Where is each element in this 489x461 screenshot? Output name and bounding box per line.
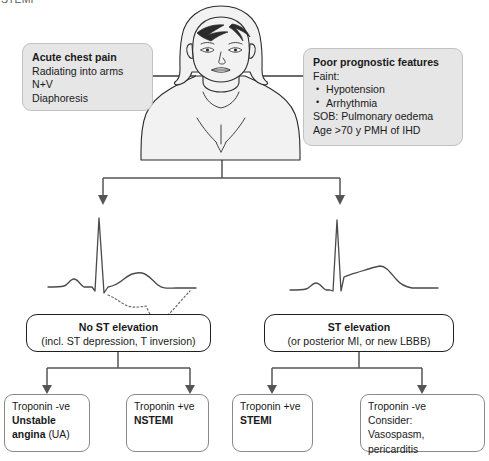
- outcome-unstable-angina: Troponin -ve Unstable angina (UA): [4, 394, 90, 452]
- ecg-right-solid-trace: [290, 220, 438, 291]
- other-consider-list: Vasospasm, pericarditis: [368, 428, 477, 456]
- stemi-troponin-status: Troponin +ve: [240, 400, 305, 414]
- outcome-nstemi: Troponin +ve NSTEMI: [126, 394, 209, 452]
- st-elevation-heading: ST elevation: [265, 320, 453, 334]
- clipped-page-title: STEMI: [1, 0, 34, 5]
- prognosis-age-line: Age >70 y PMH of IHD: [313, 124, 453, 138]
- symptom-line-1: Radiating into arms: [32, 65, 143, 79]
- acute-chest-pain-box: Acute chest pain Radiating into arms N+V…: [22, 43, 153, 111]
- ua-diagnosis-line2-bold: angina: [12, 429, 46, 440]
- acute-chest-pain-heading: Acute chest pain: [32, 51, 143, 65]
- ua-diagnosis-line2-rest: (UA): [46, 429, 70, 440]
- ua-diagnosis-line2: angina (UA): [12, 428, 82, 442]
- outcome-stemi: Troponin +ve STEMI: [232, 394, 313, 452]
- decision-st-elevation: ST elevation (or posterior MI, or new LB…: [264, 314, 454, 352]
- stemi-diagnosis: STEMI: [240, 414, 305, 428]
- other-consider-label: Consider:: [368, 414, 477, 428]
- st-elevation-subtext: (or posterior MI, or new LBBB): [265, 334, 453, 348]
- ecg-left-solid-trace: [48, 218, 196, 293]
- ecg-no-st-elevation: [48, 218, 196, 320]
- prognosis-bullet-hypotension: Hypotension: [313, 83, 453, 97]
- other-troponin-status: Troponin -ve: [368, 400, 477, 414]
- no-st-elevation-subtext: (incl. ST depression, T inversion): [27, 334, 210, 348]
- poor-prognostic-heading: Poor prognostic features: [313, 56, 453, 70]
- symptom-line-2: N+V: [32, 78, 143, 92]
- symptom-line-3: Diaphoresis: [32, 92, 143, 106]
- no-st-elevation-heading: No ST elevation: [27, 320, 210, 334]
- prognosis-bullet-arrhythmia: Arrhythmia: [313, 97, 453, 111]
- outcome-vasospasm-pericarditis: Troponin -ve Consider: Vasospasm, perica…: [360, 394, 485, 452]
- prognosis-sob-line: SOB: Pulmonary oedema: [313, 110, 453, 124]
- poor-prognostic-features-box: Poor prognostic features Faint: Hypotens…: [303, 48, 463, 146]
- nstemi-troponin-status: Troponin +ve: [134, 400, 201, 414]
- nstemi-diagnosis: NSTEMI: [134, 414, 201, 428]
- decision-no-st-elevation: No ST elevation (incl. ST depression, T …: [26, 314, 211, 352]
- ecg-st-elevation: [290, 220, 438, 291]
- ua-diagnosis-line1: Unstable: [12, 414, 82, 428]
- ua-troponin-status: Troponin -ve: [12, 400, 82, 414]
- prognosis-faint-label: Faint:: [313, 70, 453, 84]
